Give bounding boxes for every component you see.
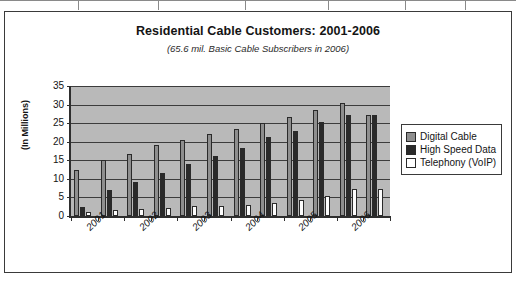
bar (113, 210, 118, 216)
bar-group (101, 86, 128, 216)
bar (260, 123, 265, 216)
bar (340, 103, 345, 216)
y-axis-tick-label: 20 (53, 137, 64, 147)
bar (352, 189, 357, 216)
table-column-divider (245, 1, 246, 10)
legend-swatch (406, 145, 416, 155)
bar (299, 200, 304, 216)
bar-group (260, 86, 287, 216)
bar (325, 196, 330, 216)
bar (101, 160, 106, 216)
chart-title: Residential Cable Customers: 2001-2006 (5, 24, 511, 38)
y-axis-tick-label: 30 (53, 100, 64, 110)
bar (166, 208, 171, 216)
table-column-divider (405, 1, 406, 10)
plot-area: 35302520151050 (69, 86, 390, 218)
bar (127, 154, 132, 216)
bar (293, 131, 298, 216)
bar (213, 156, 218, 216)
x-axis-tick (177, 216, 178, 221)
x-axis-tick (337, 216, 338, 221)
bar (154, 145, 159, 216)
legend-swatch (406, 158, 416, 168)
y-axis-tick (67, 160, 71, 161)
y-axis-tick-label: 5 (58, 192, 64, 202)
bar (219, 206, 224, 216)
bar-group (127, 86, 154, 216)
bar-group (340, 86, 367, 216)
y-axis-tick-label: 25 (53, 118, 64, 128)
bar (86, 212, 91, 216)
x-axis-tick (124, 216, 125, 221)
table-column-divider (78, 1, 79, 10)
bar (107, 190, 112, 216)
x-axis-tick (390, 216, 391, 221)
table-row-partial (0, 0, 516, 9)
table-column-divider (158, 1, 159, 10)
chart-subtitle: (65.6 mil. Basic Cable Subscribers in 20… (5, 43, 511, 54)
bar (139, 209, 144, 216)
bar (186, 164, 191, 216)
bar (266, 137, 271, 216)
y-axis-tick (67, 142, 71, 143)
bar (246, 205, 251, 216)
bar (319, 122, 324, 216)
bar (207, 134, 212, 216)
y-axis-tick (67, 105, 71, 106)
x-axis-tick (71, 216, 72, 221)
bar (372, 115, 377, 216)
bar-group (234, 86, 261, 216)
bar (133, 182, 138, 216)
y-axis-tick-label: 15 (53, 155, 64, 165)
legend-item: Digital Cable (406, 131, 496, 142)
y-axis-tick (67, 86, 71, 87)
y-axis-title: (In Millions) (20, 85, 30, 165)
bar (366, 115, 371, 216)
table-column-divider (328, 1, 329, 10)
bar-group (180, 86, 207, 216)
table-column-divider (465, 1, 466, 10)
bar (192, 206, 197, 216)
y-axis-tick-label: 35 (53, 81, 64, 91)
bar (180, 140, 185, 216)
bar (74, 170, 79, 216)
legend-label: Digital Cable (420, 131, 477, 142)
bar-group (154, 86, 181, 216)
bar (240, 148, 245, 216)
bar-group (287, 86, 314, 216)
y-axis-tick (67, 123, 71, 124)
legend-item: Telephony (VoIP) (406, 157, 496, 168)
bar (80, 207, 85, 216)
x-axis-tick (284, 216, 285, 221)
bar (378, 189, 383, 216)
legend-label: Telephony (VoIP) (420, 157, 496, 168)
legend-label: High Speed Data (420, 144, 496, 155)
bar (234, 129, 239, 216)
bar (346, 115, 351, 216)
bar-group (366, 86, 393, 216)
legend-item: High Speed Data (406, 144, 496, 155)
x-axis-tick (231, 216, 232, 221)
bar (272, 203, 277, 216)
bar-group (74, 86, 101, 216)
chart-figure-frame: Residential Cable Customers: 2001-2006 (… (4, 11, 512, 273)
bar-group (313, 86, 340, 216)
bar-group (207, 86, 234, 216)
bar (160, 173, 165, 216)
y-axis-tick (67, 179, 71, 180)
chart-legend: Digital CableHigh Speed DataTelephony (V… (401, 124, 502, 175)
bar (287, 117, 292, 216)
y-axis-tick-label: 0 (58, 211, 64, 221)
y-axis-tick-label: 10 (53, 174, 64, 184)
legend-swatch (406, 132, 416, 142)
bar (313, 110, 318, 216)
y-axis-tick (67, 197, 71, 198)
